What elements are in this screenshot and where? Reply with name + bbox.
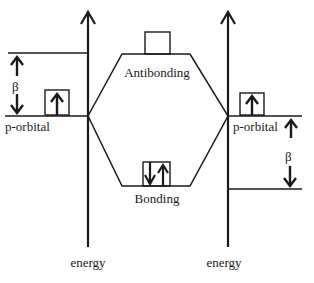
right-axis-label: energy — [206, 255, 242, 270]
left-beta-up-arrow-icon — [11, 57, 23, 76]
right-beta-down-arrow-icon — [284, 166, 296, 186]
left-p-orbital-label: p-orbital — [5, 119, 50, 134]
left-beta-down-arrow-icon — [11, 94, 23, 113]
right-beta-label: β — [285, 149, 292, 164]
left-electron-up-arrow-icon — [51, 94, 63, 115]
bonding-electron-up-arrow-icon — [158, 165, 168, 186]
mo-diagram: p-orbital β Antibonding Bonding p-orbita… — [0, 0, 314, 283]
antibonding-orbital-box — [145, 32, 170, 54]
left-energy-axis — [81, 12, 95, 247]
right-beta-up-arrow-icon — [285, 120, 297, 138]
antibonding-label: Antibonding — [124, 65, 190, 80]
left-beta-label: β — [12, 79, 19, 94]
bonding-electron-down-arrow-icon — [145, 162, 155, 184]
right-electron-up-arrow-icon — [246, 96, 258, 115]
right-p-orbital-label: p-orbital — [233, 119, 278, 134]
bonding-orbital-box — [143, 162, 170, 186]
left-axis-label: energy — [70, 255, 106, 270]
bonding-label: Bonding — [135, 191, 180, 206]
